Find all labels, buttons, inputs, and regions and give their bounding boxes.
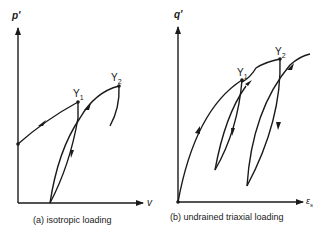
panel-a-plot [18,28,143,203]
panel-a-x-axis-label: v [147,197,152,208]
panel-b-point-y2: Y2 [275,46,286,59]
panel-b-plot [178,27,310,202]
panel-b-arrow-loop2 [276,122,281,130]
panel-a-y-axis-label: p' [12,10,21,21]
panel-b-y-axis-label: q' [174,9,183,20]
panel-b-arrow-reload1 [245,80,252,86]
panel-b-loop1-up [215,86,246,170]
panel-b-loop2-down [247,59,280,186]
panel-a-point-y2: Y2 [111,72,122,85]
panel-b-point-y1: Y1 [237,67,248,80]
diagram-canvas [0,0,331,237]
panel-b-x-axis-label: εs [306,196,313,208]
panel-b-loading-curve [178,80,242,202]
panel-b-markers [176,57,294,204]
panel-b-arrow-loading [195,126,200,134]
panel-b-caption: (b) undrained triaxial loading [170,212,284,222]
panel-a-reloading-curve [50,86,119,203]
panel-a-point-y1: Y1 [73,88,84,101]
panel-a-arrow-reloading [84,103,91,110]
panel-a-caption: (a) isotropic loading [33,215,112,225]
panel-a-unloading-curve [50,102,78,203]
panel-a-tail-curve [110,86,119,126]
panel-a-arrow-unloading [70,150,74,158]
panel-b-to-y2 [242,59,280,82]
panel-b-loop1-down [215,80,242,170]
panel-a-markers [16,84,121,158]
